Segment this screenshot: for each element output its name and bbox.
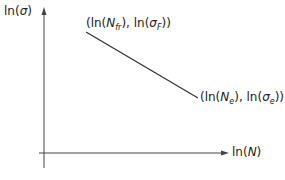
point-end-label: (ln(Ne), ln(σe)) [200,90,284,106]
x-axis-arrow-icon [221,151,229,156]
x-axis-label: ln(N) [232,145,261,159]
point-start-label: (ln(Nfr), ln(σF)) [86,16,171,32]
y-axis-arrow-icon [42,7,47,15]
y-axis-label: ln(σ) [4,4,32,18]
sn-line [86,32,198,98]
